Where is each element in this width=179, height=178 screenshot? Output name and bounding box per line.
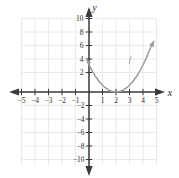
y-tick-label: −6 — [77, 128, 85, 137]
coordinate-plane-graph: −5 −4 −3 −2 −1 1 2 3 4 5 10 8 6 4 2 −2 −… — [0, 0, 179, 178]
figure-container: 7. — [0, 0, 179, 178]
y-tick-label: 8 — [80, 28, 84, 37]
x-tick-label: 1 — [101, 96, 105, 105]
x-tick-label: −5 — [18, 96, 26, 105]
y-tick-label: −8 — [77, 142, 85, 151]
x-tick-label: −3 — [45, 96, 53, 105]
x-tick-label: 5 — [155, 96, 159, 105]
y-tick-label: 6 — [80, 41, 84, 50]
x-tick-label: −2 — [58, 96, 66, 105]
y-tick-label: 4 — [80, 55, 84, 64]
y-tick-label: −10 — [73, 155, 85, 164]
x-tick-label: 4 — [141, 96, 145, 105]
x-tick-label: −4 — [31, 96, 39, 105]
x-tick-label: 3 — [128, 96, 132, 105]
y-tick-label: 10 — [76, 14, 84, 23]
y-tick-label: −2 — [77, 101, 85, 110]
x-axis-label: x — [167, 87, 173, 98]
y-axis-label: y — [91, 2, 97, 13]
x-tick-label: 2 — [114, 96, 118, 105]
y-tick-label: −4 — [77, 115, 85, 124]
y-tick-label: 2 — [80, 68, 84, 77]
